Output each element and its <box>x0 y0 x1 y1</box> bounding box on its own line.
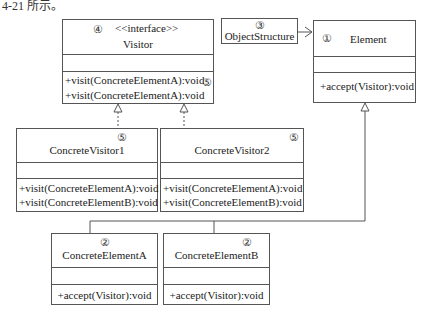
visitor-name: Visitor <box>63 38 213 51</box>
concrete-visitor2-name: ConcreteVisitor2 <box>161 144 303 157</box>
concrete-visitor1-method-1: +visit(ConcreteElementA):void <box>19 182 158 195</box>
class-concrete-element-b: ② ConcreteElementB +accept(Visitor):void <box>163 233 270 305</box>
element-name: Element <box>350 33 387 46</box>
attributes-divider <box>17 162 157 163</box>
marker-5: ⑤ <box>117 132 127 143</box>
visitor-method-1: +visit(ConcreteElementA):void <box>65 74 204 87</box>
concrete-visitor1-name: ConcreteVisitor1 <box>17 144 157 157</box>
concrete-element-b-name: ConcreteElementB <box>164 249 269 262</box>
methods-divider <box>17 178 157 179</box>
attributes-divider <box>161 162 303 163</box>
attributes-divider <box>63 54 213 55</box>
concrete-element-a-name: ConcreteElementA <box>52 249 157 262</box>
class-element: ① Element +accept(Visitor):void <box>313 20 416 103</box>
concrete-element-a-method-1: +accept(Visitor):void <box>52 289 157 302</box>
methods-divider <box>161 178 303 179</box>
concrete-visitor2-method-2: +visit(ConcreteElementB):void <box>163 196 302 209</box>
marker-5: ⑤ <box>289 132 299 143</box>
methods-divider <box>52 284 157 285</box>
marker-5: ⑤ <box>202 77 212 88</box>
class-concrete-visitor2: ⑤ ConcreteVisitor2 +visit(ConcreteElemen… <box>160 128 304 212</box>
marker-2: ② <box>52 237 157 248</box>
attributes-divider <box>314 56 415 57</box>
class-concrete-element-a: ② ConcreteElementA +accept(Visitor):void <box>51 233 158 305</box>
marker-1: ① <box>322 33 332 44</box>
concrete-element-b-method-1: +accept(Visitor):void <box>164 289 269 302</box>
attributes-divider <box>52 267 157 268</box>
concrete-visitor1-method-2: +visit(ConcreteElementB):void <box>19 196 158 209</box>
object-structure-name: ObjectStructure <box>222 30 297 43</box>
methods-divider <box>164 284 269 285</box>
marker-2: ② <box>242 237 252 248</box>
class-visitor: ④ <<interface>> Visitor +visit(ConcreteE… <box>62 19 214 104</box>
concrete-visitor2-method-1: +visit(ConcreteElementA):void <box>163 182 302 195</box>
class-concrete-visitor1: ⑤ ConcreteVisitor1 +visit(ConcreteElemen… <box>16 128 158 212</box>
methods-divider <box>314 72 415 73</box>
class-object-structure: ③ ObjectStructure <box>221 18 298 44</box>
visitor-method-2: +visit(ConcreteElementA):void <box>65 89 204 102</box>
attributes-divider <box>164 267 269 268</box>
element-method-1: +accept(Visitor):void <box>320 80 414 93</box>
methods-divider <box>63 71 213 72</box>
marker-4: ④ <box>93 24 103 35</box>
visitor-stereotype: <<interface>> <box>115 22 178 35</box>
